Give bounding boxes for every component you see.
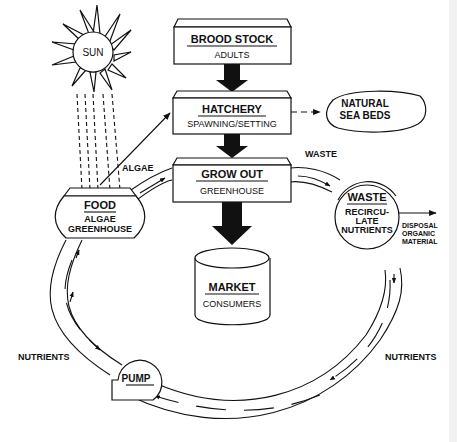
arrow-hatchery-to-growout xyxy=(216,134,248,158)
sun-label: SUN xyxy=(82,47,103,58)
waste-node: WASTE RECIRCU- LATE NUTRIENTS xyxy=(335,182,399,249)
sun-node: SUN xyxy=(52,5,131,92)
food-node: FOOD ALGAE GREENHOUSE xyxy=(55,188,145,238)
food-to-hatchery-arrow xyxy=(100,113,170,185)
hatchery-subtitle: SPAWNING/SETTING xyxy=(187,119,277,129)
disposal-label-2: ORGANIC xyxy=(402,230,435,237)
grow-out-node: GROW OUT GREENHOUSE xyxy=(173,158,291,202)
food-title: FOOD xyxy=(84,199,116,211)
market-node: MARKET CONSUMERS xyxy=(195,248,270,325)
diagram-canvas: SUN ALGAE BROOD STOCK ADULTS HATCHERY SP… xyxy=(0,0,457,442)
nutrients-right-label: NUTRIENTS xyxy=(385,352,437,362)
sea-beds-line-2: SEA BEDS xyxy=(340,110,391,121)
sea-beds-line-1: NATURAL xyxy=(341,98,389,109)
page-edge xyxy=(449,0,457,442)
market-subtitle: CONSUMERS xyxy=(203,299,262,309)
food-subtitle-1: ALGAE xyxy=(84,214,116,224)
market-title: MARKET xyxy=(208,281,255,293)
waste-title: WASTE xyxy=(347,191,386,203)
grow-out-subtitle: GREENHOUSE xyxy=(200,186,264,196)
pump-node: PUMP xyxy=(112,360,162,400)
brood-stock-title: BROOD STOCK xyxy=(191,33,273,45)
disposal-label-3: MATERIAL xyxy=(402,238,438,245)
waste-edge-label: WASTE xyxy=(305,149,337,159)
arrow-growout-to-market xyxy=(212,202,252,245)
hatchery-title: HATCHERY xyxy=(202,103,263,115)
waste-subtitle-3: NUTRIENTS xyxy=(341,225,393,235)
food-subtitle-2: GREENHOUSE xyxy=(68,224,132,234)
brood-stock-subtitle: ADULTS xyxy=(215,50,250,60)
hatchery-node: HATCHERY SPAWNING/SETTING xyxy=(173,91,291,134)
natural-sea-beds-node: NATURAL SEA BEDS xyxy=(327,91,426,132)
waste-pipe xyxy=(290,168,340,193)
nutrients-left-label: NUTRIENTS xyxy=(18,352,70,362)
brood-stock-node: BROOD STOCK ADULTS xyxy=(174,19,291,64)
arrow-brood-to-hatchery xyxy=(216,64,248,92)
grow-out-title: GROW OUT xyxy=(201,168,263,180)
algae-label: ALGAE xyxy=(122,163,154,173)
pump-label: PUMP xyxy=(122,373,151,384)
disposal-label-1: DISPOSAL xyxy=(402,222,439,229)
sunlight-rays xyxy=(77,94,120,190)
